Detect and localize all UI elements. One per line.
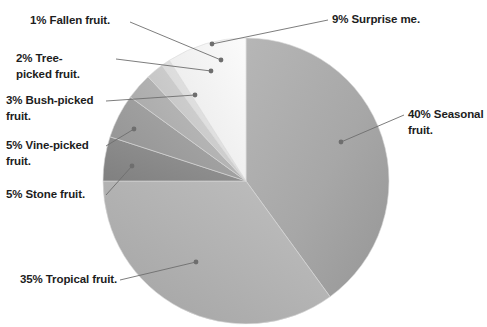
leader-dot bbox=[194, 260, 199, 265]
leader-dot bbox=[130, 164, 135, 169]
leader-dot bbox=[209, 69, 214, 74]
pie-slices-group[interactable] bbox=[103, 38, 389, 324]
leader-dot bbox=[210, 42, 215, 47]
leader-dot bbox=[193, 93, 198, 98]
pie-chart-page: 1% Fallen fruit. 9% Surprise me. 2% Tree… bbox=[0, 0, 487, 327]
leader-dot bbox=[132, 127, 137, 132]
leader-dot bbox=[339, 140, 344, 145]
leader-line bbox=[130, 22, 221, 60]
leader-dot bbox=[219, 58, 224, 63]
slice-label-tropical-fruit: 35% Tropical fruit. bbox=[20, 272, 117, 288]
slice-label-tree-picked-fruit: 2% Tree- picked fruit. bbox=[16, 51, 80, 82]
slice-label-stone-fruit: 5% Stone fruit. bbox=[6, 187, 85, 203]
slice-label-fallen-fruit: 1% Fallen fruit. bbox=[30, 13, 110, 29]
slice-label-vine-picked-fruit: 5% Vine-picked fruit. bbox=[6, 138, 89, 169]
slice-label-bush-picked-fruit: 3% Bush-picked fruit. bbox=[6, 93, 93, 124]
slice-label-surprise-me: 9% Surprise me. bbox=[332, 12, 420, 28]
slice-label-seasonal-fruit: 40% Seasonal fruit. bbox=[408, 107, 484, 138]
